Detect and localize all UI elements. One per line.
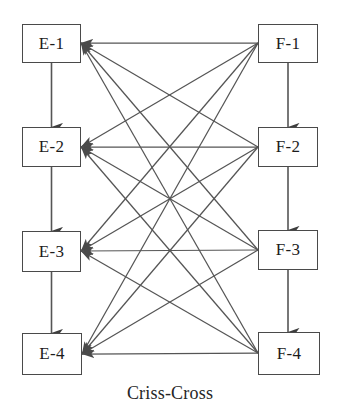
node-label: E-3 <box>39 242 64 262</box>
node-f-3[interactable]: F-3 <box>258 230 318 270</box>
node-label: F-4 <box>277 344 302 364</box>
node-f-1[interactable]: F-1 <box>258 24 318 63</box>
node-e-1[interactable]: E-1 <box>22 24 81 63</box>
diagram-canvas: E-1 E-2 E-3 E-4 F-1 F-2 F-3 F-4 Criss-Cr… <box>0 0 340 420</box>
node-e-3[interactable]: E-3 <box>22 231 81 272</box>
node-e-4[interactable]: E-4 <box>22 333 82 375</box>
node-f-2[interactable]: F-2 <box>258 127 318 167</box>
node-label: E-1 <box>39 34 64 54</box>
node-label: E-4 <box>39 344 64 364</box>
node-label: F-2 <box>276 137 301 157</box>
node-e-2[interactable]: E-2 <box>22 127 81 167</box>
cross-edge-F4-E4 <box>82 353 258 354</box>
node-label: F-1 <box>276 34 301 54</box>
node-label: F-3 <box>276 240 301 260</box>
diagram-caption: Criss-Cross <box>0 383 340 404</box>
node-f-4[interactable]: F-4 <box>258 332 320 375</box>
node-label: E-2 <box>39 137 64 157</box>
